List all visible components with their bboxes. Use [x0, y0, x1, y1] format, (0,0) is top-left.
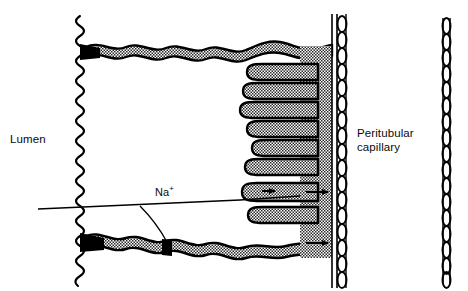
sodium-branch-to-junction	[140, 206, 167, 242]
peritubular-capillary-wall-far	[443, 18, 451, 288]
sodium-ion-charge: +	[169, 184, 174, 193]
basal-membrane	[86, 234, 326, 259]
peritubular-capillary-label-line1: Peritubular	[357, 127, 414, 139]
peritubular-capillary-label-line2: capillary	[357, 141, 400, 153]
basolateral-interdigitations	[240, 46, 332, 258]
apical-membrane	[86, 42, 332, 62]
sodium-ion-symbol: Na	[155, 186, 169, 198]
lumen-label: Lumen	[10, 133, 46, 147]
tubule-transport-diagram: Lumen Peritubularcapillary Na+	[0, 0, 468, 291]
peritubular-capillary-wall-near	[332, 14, 347, 288]
sodium-ion-label: Na+	[155, 182, 174, 199]
peritubular-capillary-label: Peritubularcapillary	[357, 127, 414, 154]
